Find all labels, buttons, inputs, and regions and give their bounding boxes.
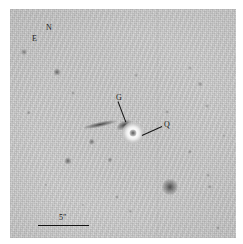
quasar-label: Q: [164, 121, 170, 129]
star-point-source: [205, 104, 209, 108]
star-point-source: [162, 179, 178, 195]
star-point-source: [134, 73, 138, 77]
star-point-source: [188, 66, 192, 70]
star-point-source: [206, 173, 210, 177]
star-point-source: [21, 49, 27, 55]
astronomical-image-plate: N E G Q 5″: [10, 9, 236, 238]
detector-column-artifact: [157, 9, 158, 238]
quasar-core: [130, 130, 137, 137]
scale-bar-line: [38, 225, 89, 226]
star-point-source: [115, 195, 119, 199]
compass-north-label: N: [46, 24, 52, 32]
star-point-source: [71, 91, 75, 95]
scale-bar-label: 5″: [59, 214, 66, 222]
star-point-source: [198, 82, 203, 87]
galaxy-label: G: [116, 94, 122, 102]
star-point-source: [54, 69, 61, 76]
compass-east-label: E: [32, 35, 37, 43]
finding-chart-figure: N E G Q 5″: [0, 0, 243, 244]
star-point-source: [128, 209, 132, 213]
star-point-source: [216, 226, 220, 230]
